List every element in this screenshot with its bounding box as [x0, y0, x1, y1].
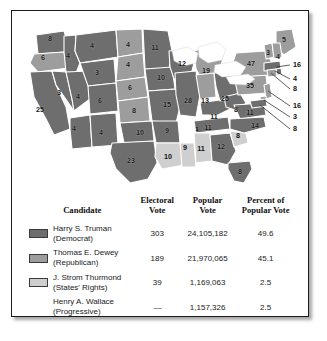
state-votes-ok: 10 [136, 128, 144, 137]
state-votes-nc: 14 [251, 121, 259, 130]
state-votes-az: 4 [72, 124, 76, 133]
header-electoral-vote-line1: Electoral [141, 195, 174, 205]
legend-swatch-none [29, 303, 48, 312]
header-popular-vote: Popular Vote [179, 195, 236, 221]
table-header-row: Candidate Electoral Vote Popular Vote Pe… [29, 195, 295, 221]
state-nm[interactable] [90, 113, 118, 147]
candidate-party: (States' Rights) [53, 283, 121, 293]
state-or[interactable] [30, 52, 68, 72]
state-ct[interactable] [267, 69, 277, 77]
state-votes-or: 6 [41, 53, 45, 62]
header-percent-popular-vote: Percent of Popular Vote [236, 195, 295, 221]
state-votes-co: 6 [98, 96, 102, 105]
header-electoral-vote: Electoral Vote [135, 195, 179, 221]
state-votes-va: 11 [246, 108, 254, 117]
callout-votes-ri: 4 [293, 74, 297, 83]
state-votes-pa: 35 [246, 81, 254, 90]
state-sd[interactable] [116, 53, 145, 81]
callout-votes-ma: 16 [293, 60, 301, 69]
cell-popular-vote: 24,105,182 [179, 221, 236, 246]
state-votes-wv: 8 [234, 105, 238, 114]
state-votes-mn: 11 [151, 43, 159, 52]
cell-candidate: Thomas E. Dewey(Republican) [29, 246, 135, 271]
state-votes-ut: 4 [76, 92, 80, 101]
state-votes-ny: 47 [247, 59, 255, 68]
table-row: Henry A. Wallace(Progressive)—1,157,3262… [29, 295, 295, 320]
cell-electoral-vote: 303 [135, 221, 179, 246]
electoral-map-svg: 8625434443644468102311101591012289191311… [12, 11, 308, 189]
state-votes-wy: 3 [95, 68, 99, 77]
candidate-party: (Progressive) [53, 307, 114, 317]
table-row: Thomas E. Dewey(Republican)18921,970,065… [29, 246, 295, 271]
state-votes-mi: 19 [202, 66, 210, 75]
state-votes-ne: 6 [128, 83, 132, 92]
state-votes-nm: 4 [99, 128, 103, 137]
legend-swatch-thurmond [29, 278, 48, 287]
state-votes-mo: 15 [163, 100, 171, 109]
candidate-name: Thomas E. Dewey [53, 248, 118, 258]
header-percent-line1: Percent of [247, 195, 284, 205]
state-votes-nd: 4 [126, 40, 130, 49]
state-votes-nh: 4 [276, 52, 280, 61]
cell-electoral-vote: 39 [135, 270, 179, 295]
state-votes-ar: 9 [165, 126, 169, 135]
table-row: Harry S. Truman(Democrat)30324,105,18249… [29, 221, 295, 246]
cell-percent-popular-vote: 2.5 [236, 270, 295, 295]
results-table-panel: Candidate Electoral Vote Popular Vote Pe… [12, 189, 308, 316]
state-votes-me: 5 [282, 35, 286, 44]
state-votes-ky: 11 [210, 112, 218, 121]
candidate-name: Henry A. Wallace [53, 297, 114, 307]
cell-percent-popular-vote: 2.5 [236, 295, 295, 320]
callout-votes-de: 3 [293, 112, 297, 121]
state-co[interactable] [88, 83, 118, 114]
state-votes-wi: 12 [178, 59, 186, 68]
state-votes-tx: 23 [127, 156, 135, 165]
state-votes-oh: 25 [221, 94, 229, 103]
state-votes-fl: 8 [238, 167, 242, 176]
cell-electoral-vote: — [135, 295, 179, 320]
state-votes-la: 10 [164, 152, 172, 161]
state-votes-id: 4 [66, 51, 70, 60]
candidate-party: (Republican) [53, 258, 118, 268]
state-votes-nv: 3 [57, 88, 61, 97]
state-votes-il: 28 [184, 96, 192, 105]
cell-popular-vote: 1,157,326 [179, 295, 236, 320]
state-votes-vt: 3 [266, 48, 270, 57]
header-popular-vote-line2: Vote [199, 205, 215, 215]
state-votes-ms: 9 [183, 143, 187, 152]
candidate-name: J. Strom Thurmond [53, 273, 121, 283]
candidate-party: (Democrat) [53, 234, 112, 244]
state-votes-sc: 8 [236, 131, 240, 140]
results-table: Candidate Electoral Vote Popular Vote Pe… [29, 195, 295, 319]
cell-candidate: Harry S. Truman(Democrat) [29, 221, 135, 246]
state-votes-in: 13 [201, 96, 209, 105]
state-votes-wa: 8 [48, 34, 52, 43]
callout-votes-md: 8 [293, 124, 297, 133]
state-votes-mt: 4 [90, 41, 94, 50]
header-candidate: Candidate [29, 195, 135, 221]
cell-electoral-vote: 189 [135, 246, 179, 271]
callout-votes-ct: 8 [293, 84, 297, 93]
candidate-name: Harry S. Truman [53, 224, 112, 234]
state-votes-ks: 8 [132, 106, 136, 115]
header-percent-line2: Popular Vote [242, 205, 290, 215]
header-electoral-vote-line2: Vote [149, 205, 165, 215]
cell-percent-popular-vote: 49.6 [236, 221, 295, 246]
state-votes-tn: 11 [204, 123, 212, 132]
results-table-body: Harry S. Truman(Democrat)30324,105,18249… [29, 221, 295, 319]
cell-popular-vote: 21,970,065 [179, 246, 236, 271]
state-wa[interactable] [36, 31, 68, 54]
state-votes-sd: 4 [126, 60, 130, 69]
figure-frame: 8625434443644468102311101591012289191311… [11, 10, 309, 317]
cell-candidate: J. Strom Thurmond(States' Rights) [29, 270, 135, 295]
state-votes-ca: 25 [36, 105, 44, 114]
state-votes-ia: 10 [157, 73, 165, 82]
legend-swatch-dewey [29, 254, 48, 263]
table-row: J. Strom Thurmond(States' Rights)391,169… [29, 270, 295, 295]
cell-percent-popular-vote: 45.1 [236, 246, 295, 271]
electoral-map-panel: 8625434443644468102311101591012289191311… [12, 11, 308, 189]
state-votes-al: 11 [197, 144, 205, 153]
legend-swatch-truman [29, 229, 48, 238]
state-mt[interactable] [75, 30, 118, 63]
header-popular-vote-line1: Popular [193, 195, 223, 205]
